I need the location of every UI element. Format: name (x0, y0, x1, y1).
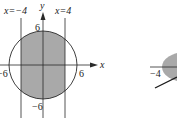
x-axis-label: x (99, 59, 105, 70)
figure-left: y x x=−4 x=4 6 −6 −6 6 (0, 0, 105, 118)
y-axis-arrow-icon (41, 12, 46, 20)
line-label-x-neg4: x=−4 (3, 5, 27, 16)
tick-label-left-right-figure: −4 (150, 68, 161, 79)
y-axis-label: y (39, 0, 45, 11)
x-axis-arrow-icon (90, 63, 98, 68)
figure-right: −4 (150, 52, 177, 88)
diagram-canvas: y x x=−4 x=4 6 −6 −6 6 −4 (0, 0, 177, 118)
tick-label-right: 6 (79, 68, 84, 79)
tick-label-bottom: −6 (32, 101, 43, 112)
tick-label-top: 6 (35, 22, 40, 33)
line-label-x-4: x=4 (54, 5, 71, 16)
tick-label-left: −6 (0, 68, 8, 79)
